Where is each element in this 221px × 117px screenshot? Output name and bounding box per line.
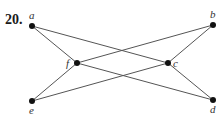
node-label-a: a	[29, 9, 35, 21]
graph-diagram: abfced	[0, 0, 221, 117]
edge-e-f	[32, 63, 77, 101]
node-label-d: d	[210, 103, 216, 115]
node-c	[165, 60, 171, 66]
node-a	[29, 23, 35, 29]
node-f	[74, 60, 80, 66]
node-label-e: e	[29, 104, 34, 116]
node-b	[210, 22, 216, 28]
edge-f-d	[77, 63, 213, 100]
edge-a-c	[32, 26, 168, 63]
node-label-f: f	[66, 57, 71, 69]
edge-a-f	[32, 26, 77, 63]
node-label-b: b	[210, 8, 216, 20]
node-label-c: c	[173, 57, 178, 69]
